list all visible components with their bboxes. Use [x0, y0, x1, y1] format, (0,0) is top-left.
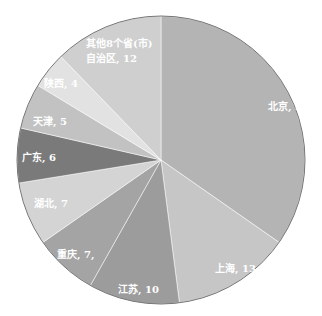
label-other-line1: 其他8个省(市): [86, 37, 152, 49]
label-beijing: 北京, 34: [268, 100, 309, 113]
label-hubei: 湖北, 7: [34, 197, 68, 210]
label-other-line2: 自治区, 12: [86, 52, 137, 65]
label-jiangsu: 江苏, 10: [118, 283, 159, 296]
pie-slices: [17, 16, 305, 304]
label-tianjin: 天津, 5: [33, 115, 67, 128]
pie-chart: 北京, 34 上海, 13 江苏, 10 重庆, 7, 湖北, 7 广东, 6 …: [0, 0, 322, 316]
label-chongqing: 重庆, 7,: [57, 248, 94, 261]
label-shaanxi: 陕西, 4: [44, 77, 78, 90]
label-guangdong: 广东, 6: [22, 151, 56, 164]
label-shanghai: 上海, 13: [215, 262, 256, 275]
